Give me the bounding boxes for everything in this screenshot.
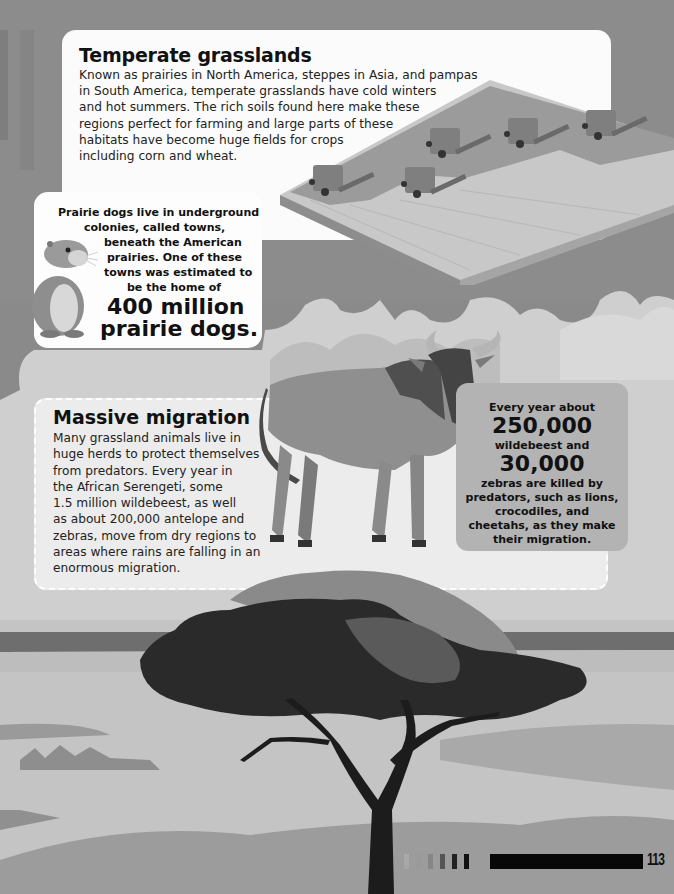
fact-line: towns was estimated to xyxy=(104,265,252,280)
folio-tick xyxy=(452,854,457,869)
stat-line: zebras are killed by xyxy=(456,476,628,491)
wheat-field-illustration xyxy=(275,75,674,285)
page-folio: 113 xyxy=(404,854,674,872)
prairie-dog-illustration xyxy=(28,234,98,338)
body-line: huge herds to protect themselves xyxy=(53,446,263,462)
folio-tick xyxy=(440,854,445,869)
fact-line: Prairie dogs live in underground xyxy=(58,205,259,220)
body-line: areas where rains are falling in an xyxy=(53,544,263,560)
section-body: Many grassland animals live in huge herd… xyxy=(53,430,263,577)
page-number: 113 xyxy=(647,851,664,869)
stat-line: crocodiles, and xyxy=(456,504,628,519)
folio-tick xyxy=(464,854,469,869)
fact-highlight: 400 million xyxy=(107,295,244,318)
acacia-tree-illustration xyxy=(60,565,620,894)
folio-tick xyxy=(404,854,409,869)
page-edge-strip xyxy=(20,30,34,170)
body-line: zebras, move from dry regions to xyxy=(53,528,263,544)
stat-number-zebras: 30,000 xyxy=(456,453,628,475)
body-line: from predators. Every year in xyxy=(53,463,263,479)
folio-bar xyxy=(490,854,643,869)
folio-tick xyxy=(428,854,433,869)
fact-highlight: prairie dogs. xyxy=(100,317,258,340)
stat-line: cheetahs, as they make xyxy=(456,518,628,533)
body-line: as about 200,000 antelope and xyxy=(53,511,263,527)
stat-line: predators, such as lions, xyxy=(456,490,628,505)
section-title: Massive migration xyxy=(53,406,250,428)
section-title: Temperate grasslands xyxy=(79,44,312,66)
page-edge-strip xyxy=(0,30,8,140)
migration-stat-panel: Every year about 250,000 wildebeest and … xyxy=(456,383,628,551)
folio-tick xyxy=(416,854,421,869)
fact-line: colonies, called towns, xyxy=(84,220,225,235)
stat-number-wildebeest: 250,000 xyxy=(456,415,628,437)
body-line: 1.5 million wildebeest, as well xyxy=(53,495,263,511)
body-line: the African Serengeti, some xyxy=(53,479,263,495)
fact-line: prairies. One of these xyxy=(107,250,242,265)
body-line: Many grassland animals live in xyxy=(53,430,263,446)
stat-line: their migration. xyxy=(456,532,628,547)
fact-line: beneath the American xyxy=(104,235,242,250)
fact-line: be the home of xyxy=(127,280,221,295)
